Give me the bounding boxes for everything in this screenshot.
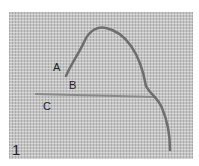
thread-curve [66, 28, 170, 151]
label-a: A [53, 62, 60, 73]
straight-stitch-line [35, 94, 156, 97]
label-b: B [69, 80, 76, 91]
label-c: C [43, 101, 51, 112]
step-number: 1 [12, 142, 20, 157]
stitch-diagram [0, 0, 199, 166]
